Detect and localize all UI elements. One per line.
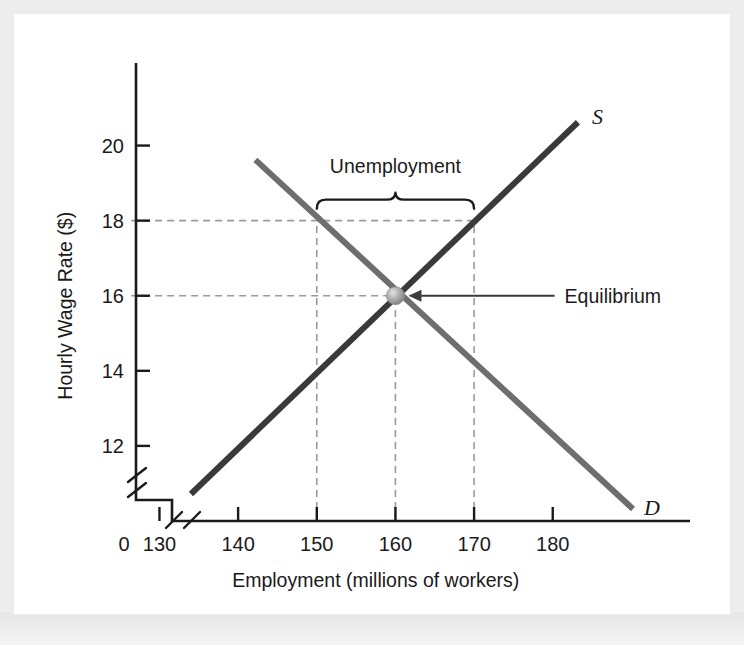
x-tick-label-150: 150 (300, 533, 333, 555)
x-tick-label-140: 140 (221, 533, 254, 555)
unemployment-label: Unemployment (330, 155, 462, 177)
equilibrium-label: Equilibrium (565, 285, 661, 307)
x-tick-label-160: 160 (379, 533, 412, 555)
supply-curve-label: S (592, 104, 603, 129)
x-tick-label-170: 170 (457, 533, 490, 555)
demand-curve-label: D (643, 495, 660, 520)
y-tick-label-16: 16 (102, 285, 124, 307)
curve-demand (255, 160, 633, 509)
guide-lines (131, 221, 474, 521)
y-tick-label-12: 12 (102, 435, 124, 457)
y-tick-label-20: 20 (102, 135, 124, 157)
unemployment-brace (317, 193, 474, 209)
figure-root: 12141618201301401501601701800 SD Unemplo… (0, 0, 744, 645)
origin-label: 0 (118, 533, 129, 555)
y-tick-label-14: 14 (102, 360, 124, 382)
x-tick-label-130: 130 (143, 533, 176, 555)
annotations: UnemploymentEquilibrium (317, 155, 661, 307)
curve-supply (191, 122, 578, 494)
axis-corner-stub (136, 466, 196, 521)
y-tick-label-18: 18 (102, 210, 124, 232)
x-axis-title: Employment (millions of workers) (232, 569, 519, 591)
x-tick-label-180: 180 (536, 533, 569, 555)
y-axis-title: Hourly Wage Rate ($) (54, 212, 76, 400)
equilibrium-marker (386, 287, 404, 305)
labor-market-chart: 12141618201301401501601701800 SD Unemplo… (0, 0, 744, 645)
